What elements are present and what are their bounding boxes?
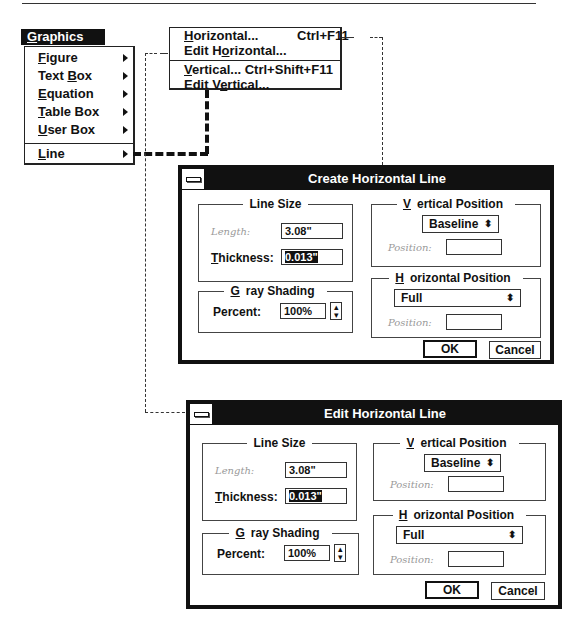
ok-button[interactable]: OK (425, 581, 479, 599)
percent-input[interactable]: 100% (280, 303, 326, 319)
dialog-titlebar: Create Horizontal Line (182, 169, 550, 190)
menu-item-figure[interactable]: Figure (25, 49, 133, 67)
group-label: Gray Shading (229, 526, 331, 540)
system-menu-icon (194, 412, 209, 417)
length-label: Length: (211, 225, 250, 239)
menu-item-label: User Box (38, 121, 95, 139)
shortcut-label: Ctrl+F11 (297, 28, 349, 44)
line-size-group: Line Size Length: 3.08" Thickness: 0.013… (198, 204, 353, 282)
vertical-position-group: Vertical Position Baseline⬍ Position: (373, 443, 546, 501)
system-menu-icon (186, 177, 201, 182)
selected-value: Full (403, 528, 424, 542)
group-label: Gray Shading (224, 284, 326, 298)
system-menu-button[interactable] (182, 169, 205, 189)
shortcut-label: Ctrl+Shift+F11 (245, 62, 333, 77)
vertical-position-select[interactable]: Baseline⬍ (422, 215, 499, 233)
thickness-input[interactable]: 0.013" (285, 488, 347, 504)
menu-item-label: Text Box (38, 67, 92, 85)
length-label: Length: (215, 464, 254, 478)
updown-arrow-icon: ⬍ (506, 290, 514, 306)
gray-shading-group: Gray Shading Percent: 100% ▴▾ (202, 533, 359, 575)
thickness-input[interactable]: 0.013" (281, 249, 343, 265)
spin-icon: ▴▾ (334, 302, 339, 320)
submenu-item-horizontal[interactable]: Horizontal...Ctrl+F11 (184, 28, 258, 44)
percent-label: Percent: (217, 547, 265, 561)
connector-line-to-submenu-vertical (205, 90, 209, 154)
cancel-button[interactable]: Cancel (489, 341, 541, 359)
group-label: Vertical Position (400, 436, 518, 450)
group-label: Line Size (243, 197, 307, 211)
accel-char: G (27, 29, 37, 44)
horizontal-position-select[interactable]: Full⬍ (396, 526, 523, 544)
graphics-menu-title-rest: raphics (37, 29, 83, 44)
line-submenu: Horizontal...Ctrl+F11 Edit Horizontal...… (169, 27, 342, 90)
menu-item-user-box[interactable]: User Box (25, 121, 133, 139)
length-input[interactable]: 3.08" (285, 462, 347, 478)
group-label: Horizontal Position (389, 271, 522, 285)
connector-edit-horizontal-h (145, 53, 157, 54)
percent-input[interactable]: 100% (284, 545, 330, 561)
percent-label: Percent: (213, 305, 261, 319)
connector-horizontal-stub (342, 37, 354, 38)
cancel-button[interactable]: Cancel (491, 582, 545, 600)
menu-item-equation[interactable]: Equation (25, 85, 133, 103)
vertical-position-label: Position: (390, 478, 434, 492)
submenu-arrow-icon (123, 72, 128, 80)
submenu-arrow-icon (123, 108, 128, 116)
submenu-arrow-icon (123, 150, 128, 158)
updown-arrow-icon: ⬍ (486, 455, 494, 471)
create-horizontal-line-dialog: Create Horizontal Line Line Size Length:… (178, 165, 554, 364)
menu-item-label: Table Box (38, 103, 99, 121)
horizontal-position-input[interactable] (446, 314, 502, 330)
connector-horizontal-h (370, 37, 382, 38)
submenu-item-edit-vertical[interactable]: Edit Vertical... (184, 77, 269, 93)
horizontal-position-group: Horizontal Position Full⬍ Position: (373, 515, 546, 575)
line-size-group: Line Size Length: 3.08" Thickness: 0.013… (202, 443, 357, 521)
connector-edit-horizontal-stub (160, 53, 168, 54)
horizontal-position-label: Position: (390, 553, 434, 567)
graphics-menu-title[interactable]: Graphics (21, 29, 105, 45)
submenu-item-vertical[interactable]: Vertical... Ctrl+Shift+F11 (184, 62, 333, 78)
menu-item-label: Figure (38, 49, 78, 67)
updown-arrow-icon: ⬍ (484, 216, 492, 232)
spin-icon: ▴▾ (338, 544, 343, 562)
menu-item-text-box[interactable]: Text Box (25, 67, 133, 85)
percent-spinner[interactable]: ▴▾ (330, 302, 342, 320)
selected-value: Full (401, 291, 422, 305)
horizontal-position-input[interactable] (448, 551, 504, 567)
selected-text: 0.013" (285, 251, 318, 263)
updown-arrow-icon: ⬍ (508, 527, 516, 543)
vertical-position-group: Vertical Position Baseline⬍ Position: (371, 204, 541, 267)
length-input[interactable]: 3.08" (281, 223, 343, 239)
submenu-separator (170, 60, 340, 61)
connector-edit-dialog-h (145, 412, 185, 413)
thickness-label: Thickness: (211, 251, 274, 265)
menu-item-line[interactable]: Line (25, 145, 133, 163)
gray-shading-group: Gray Shading Percent: 100% ▴▾ (198, 291, 353, 333)
vertical-position-select[interactable]: Baseline⬍ (424, 454, 501, 472)
menu-item-label: Equation (38, 85, 94, 103)
menu-item-table-box[interactable]: Table Box (25, 103, 133, 121)
connector-horizontal-to-create-dialog (382, 37, 383, 165)
menu-item-label: Line (38, 145, 65, 163)
page-rule (22, 3, 536, 4)
connector-edit-horizontal-to-edit-dialog (145, 53, 146, 412)
group-label: Vertical Position (397, 197, 515, 211)
submenu-arrow-icon (123, 54, 128, 62)
percent-spinner[interactable]: ▴▾ (334, 544, 346, 562)
selected-text: 0.013" (289, 490, 322, 502)
horizontal-position-group: Horizontal Position Full⬍ Position: (371, 278, 541, 338)
thickness-label: Thickness: (215, 490, 278, 504)
selected-value: Baseline (431, 456, 480, 470)
submenu-arrow-icon (123, 90, 128, 98)
system-menu-button[interactable] (190, 404, 213, 424)
vertical-position-input[interactable] (446, 239, 502, 255)
edit-horizontal-line-dialog: Edit Horizontal Line Line Size Length: 3… (186, 400, 562, 609)
dialog-title: Create Horizontal Line (204, 169, 550, 189)
selected-value: Baseline (429, 217, 478, 231)
dialog-title: Edit Horizontal Line (212, 404, 558, 424)
ok-button[interactable]: OK (423, 340, 477, 358)
vertical-position-input[interactable] (448, 476, 504, 492)
horizontal-position-select[interactable]: Full⬍ (394, 289, 521, 307)
submenu-item-edit-horizontal[interactable]: Edit Horizontal... (184, 43, 287, 59)
